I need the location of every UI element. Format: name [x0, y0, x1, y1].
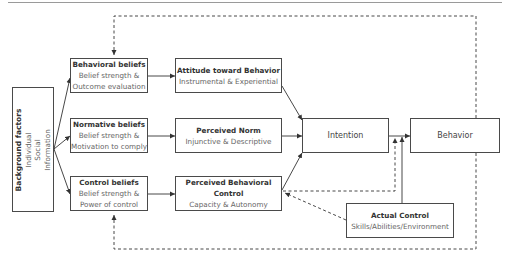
perceived-norm-sub: Injunctive & Descriptive [185, 136, 271, 147]
pbc-title: Perceived Behavioral [186, 177, 272, 188]
actual-control-sub: Skills/Abilities/Environment [351, 221, 449, 232]
control-beliefs-box: Control beliefs Belief strength & Power … [70, 176, 148, 211]
behavioral-beliefs-line2: Outcome evaluation [73, 81, 146, 92]
behavioral-beliefs-box: Behavioral beliefs Belief strength & Out… [70, 58, 148, 93]
perceived-norm-box: Perceived Norm Injunctive & Descriptive [175, 118, 282, 153]
perceived-behavioral-control-box: Perceived Behavioral Control Capacity & … [175, 176, 282, 211]
normative-beliefs-line2: Motivation to comply [71, 141, 147, 152]
behavioral-beliefs-title: Behavioral beliefs [73, 59, 146, 70]
background-factor-information: Information [43, 129, 53, 171]
normative-beliefs-box: Normative beliefs Belief strength & Moti… [70, 118, 148, 153]
attitude-sub: Instrumental & Experiential [179, 76, 278, 87]
normative-beliefs-title: Normative beliefs [73, 119, 145, 130]
behavior-box: Behavior [410, 118, 500, 153]
control-beliefs-line1: Belief strength & [79, 188, 140, 199]
perceived-norm-title: Perceived Norm [196, 125, 260, 136]
actual-control-title: Actual Control [371, 210, 429, 221]
attitude-box: Attitude toward Behavior Instrumental & … [175, 58, 282, 93]
intention-label: Intention [328, 130, 364, 141]
intention-box: Intention [302, 118, 389, 153]
background-factors-box: Background factors Individual Social Inf… [12, 87, 54, 212]
attitude-title: Attitude toward Behavior [177, 65, 280, 76]
background-factor-individual: Individual [24, 132, 34, 167]
control-beliefs-title: Control beliefs [79, 177, 138, 188]
actual-control-box: Actual Control Skills/Abilities/Environm… [346, 203, 454, 238]
control-beliefs-line2: Power of control [80, 199, 138, 210]
background-factors-title: Background factors [14, 108, 24, 191]
behavior-label: Behavior [437, 130, 473, 141]
pbc-sub: Capacity & Autonomy [189, 199, 267, 210]
background-factor-social: Social [33, 139, 43, 160]
normative-beliefs-line1: Belief strength & [79, 130, 140, 141]
behavioral-beliefs-line1: Belief strength & [79, 70, 140, 81]
pbc-title-line2: Control [214, 188, 244, 199]
